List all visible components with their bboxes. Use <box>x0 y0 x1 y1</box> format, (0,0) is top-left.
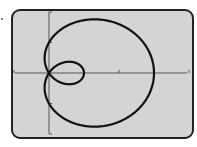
polar-graph <box>0 0 197 147</box>
